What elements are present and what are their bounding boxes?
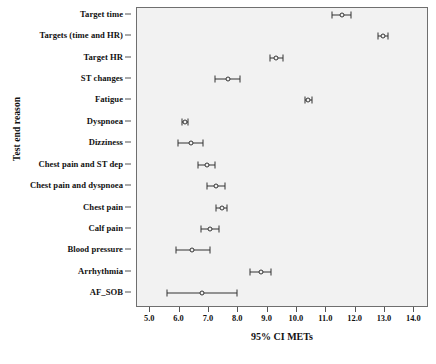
ci-lower-cap [197, 161, 198, 168]
plot-panel [136, 7, 428, 307]
mean-marker [182, 119, 187, 124]
category-tick [125, 270, 131, 271]
category-tick [125, 185, 131, 186]
x-axis-tick-label: 14.0 [406, 314, 421, 323]
category-tick [125, 35, 131, 36]
x-axis-tick [208, 307, 209, 312]
ci-upper-cap [282, 54, 283, 61]
ci-lower-cap [269, 54, 270, 61]
x-axis-tick-labels: 5.06.07.08.09.010.011.012.013.014.0 [136, 314, 428, 328]
ci-upper-cap [209, 247, 210, 254]
ci-upper-cap [351, 11, 352, 18]
x-axis-tick [237, 307, 238, 312]
category-tick [125, 206, 131, 207]
x-axis-tick [179, 307, 180, 312]
category-label: Targets (time and HR) [39, 30, 123, 40]
category-label: AF_SOB [90, 287, 123, 297]
ci-upper-cap [225, 183, 226, 190]
mean-marker [340, 12, 345, 17]
category-tick [125, 142, 131, 143]
category-tick [125, 56, 131, 57]
category-label: Dyspnoea [87, 116, 123, 126]
mean-marker [380, 34, 385, 39]
x-axis-tick-label: 12.0 [347, 314, 362, 323]
category-label: Chest pain and ST dep [39, 159, 123, 169]
x-axis-tick [296, 307, 297, 312]
chart-root: Test end reason Target timeTargets (time… [0, 0, 436, 364]
x-axis-tick [325, 307, 326, 312]
category-tick [125, 99, 131, 100]
category-label: Dizziness [89, 137, 123, 147]
ci-lower-cap [175, 247, 176, 254]
mean-marker [208, 227, 213, 232]
category-label: Arrhythmia [78, 266, 123, 276]
mean-marker [274, 55, 279, 60]
ci-upper-cap [311, 97, 312, 104]
category-tick [125, 292, 131, 293]
ci-lower-cap [216, 204, 217, 211]
category-label: Chest pain and dyspnoea [30, 180, 123, 190]
category-tick [125, 249, 131, 250]
ci-lower-cap [178, 140, 179, 147]
mean-marker [259, 269, 264, 274]
mean-marker [189, 248, 194, 253]
mean-marker [219, 205, 224, 210]
category-label: Target time [80, 9, 123, 19]
category-tick [125, 78, 131, 79]
ci-upper-cap [270, 268, 271, 275]
category-tick [125, 163, 131, 164]
x-axis-title: 95% CI METs [136, 331, 428, 342]
category-label: Blood pressure [67, 244, 123, 254]
mean-marker [225, 77, 230, 82]
category-label: Fatigue [95, 94, 123, 104]
category-tick [125, 228, 131, 229]
ci-upper-cap [236, 290, 237, 297]
x-axis-tick-label: 6.0 [173, 314, 183, 323]
ci-upper-cap [387, 33, 388, 40]
ci-lower-cap [249, 268, 250, 275]
ci-upper-cap [202, 140, 203, 147]
y-axis-category-labels: Target timeTargets (time and HR)Target H… [0, 7, 131, 307]
mean-marker [204, 162, 209, 167]
x-axis-tick-label: 9.0 [261, 314, 271, 323]
mean-marker [214, 184, 219, 189]
ci-lower-cap [215, 76, 216, 83]
category-label: Target HR [83, 52, 123, 62]
mean-marker [306, 98, 311, 103]
ci-lower-cap [377, 33, 378, 40]
x-axis-tick [149, 307, 150, 312]
category-tick [125, 13, 131, 14]
category-tick [125, 120, 131, 121]
x-axis-tick [384, 307, 385, 312]
x-axis-tick-label: 11.0 [318, 314, 332, 323]
category-label: Chest pain [83, 202, 123, 212]
category-label: Calf pain [88, 223, 123, 233]
x-axis-tick [355, 307, 356, 312]
ci-lower-cap [166, 290, 167, 297]
x-axis-tick-label: 10.0 [289, 314, 304, 323]
category-label: ST changes [81, 73, 123, 83]
x-axis-tick [267, 307, 268, 312]
ci-upper-cap [219, 226, 220, 233]
x-axis-tick-label: 5.0 [144, 314, 154, 323]
ci-lower-cap [200, 226, 201, 233]
ci-upper-cap [227, 204, 228, 211]
ci-upper-cap [188, 118, 189, 125]
x-axis-tick-label: 8.0 [232, 314, 242, 323]
mean-marker [199, 291, 204, 296]
mean-marker [188, 141, 193, 146]
x-axis-tick-label: 7.0 [203, 314, 213, 323]
ci-lower-cap [332, 11, 333, 18]
ci-lower-cap [207, 183, 208, 190]
x-axis-tick [413, 307, 414, 312]
x-axis-tick-label: 13.0 [377, 314, 392, 323]
ci-upper-cap [239, 76, 240, 83]
ci-upper-cap [215, 161, 216, 168]
